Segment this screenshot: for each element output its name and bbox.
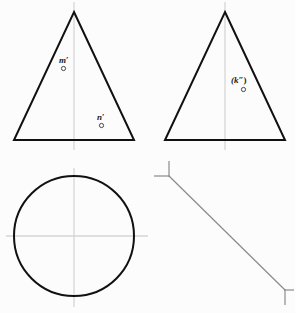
drawing-sheet: m′ n′ (k″) — [0, 0, 295, 313]
point-label-m-prime: m′ — [59, 56, 69, 65]
point-label-k-double-prime-text: (k — [231, 75, 239, 85]
point-label-m-prime-mark: ′ — [66, 55, 69, 65]
point-label-k-double-prime: (k″) — [231, 76, 246, 85]
point-label-n-prime: n′ — [97, 113, 105, 122]
technical-drawing-canvas — [0, 0, 295, 313]
point-label-m-prime-text: m — [59, 55, 66, 65]
point-label-n-prime-mark: ′ — [102, 112, 105, 122]
point-label-k-double-prime-mark: ″) — [239, 75, 247, 85]
sheet-background — [0, 0, 295, 313]
